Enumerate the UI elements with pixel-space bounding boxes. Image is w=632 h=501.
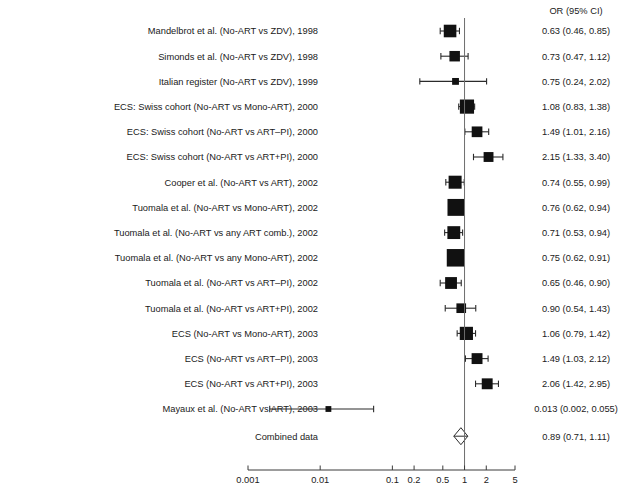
forest-row: ECS: Swiss cohort (No-ART vs ART–PI), 20… [127,126,610,137]
effect-marker [482,378,493,389]
axis-tick-label: 0.1 [386,475,399,485]
effect-marker [447,249,465,267]
study-label: Tuomala et al. (No-ART vs ART–PI), 2002 [145,278,318,288]
summary-label: Combined data [255,432,319,442]
effect-value: 0.75 (0.62, 0.91) [542,253,610,263]
forest-row: ECS: Swiss cohort (No-ART vs Mono-ART), … [114,100,610,114]
axis-tick-label: 5 [512,475,517,485]
study-label: Tuomala et al. (No-ART vs Mono-ART), 200… [132,203,318,213]
effect-value: 1.49 (1.03, 2.12) [542,354,610,364]
study-label: Simonds et al. (No-ART vs ZDV), 1998 [158,52,318,62]
study-label: ECS (No-ART vs ART+PI), 2003 [184,379,318,389]
effect-marker [452,78,459,85]
effect-marker [325,406,331,412]
effect-value: 0.63 (0.46, 0.85) [542,26,610,36]
forest-row: Mayaux et al. (No-ART vs ART), 20030.013… [162,404,617,414]
effect-value: 0.75 (0.24, 2.02) [542,77,610,87]
effect-marker [447,199,464,216]
effect-marker [447,226,460,239]
axis-tick-label: 1 [462,475,467,485]
forest-row: ECS (No-ART vs ART–PI), 20031.49 (1.03, … [185,353,610,364]
forest-row: Tuomala et al. (No-ART vs any ART comb.)… [114,226,610,239]
effect-value: 0.73 (0.47, 1.12) [542,52,610,62]
forest-row: ECS (No-ART vs Mono-ART), 20031.06 (0.79… [172,327,610,340]
x-axis: 0.0010.010.10.20.5125 [236,466,517,486]
forest-row: Mandelbrot et al. (No-ART vs ZDV), 19980… [148,25,610,38]
effect-marker [445,277,457,289]
effect-value: 1.08 (0.83, 1.38) [542,102,610,112]
forest-row: Simonds et al. (No-ART vs ZDV), 19980.73… [158,51,610,62]
study-label: ECS: Swiss cohort (No-ART vs ART–PI), 20… [127,127,318,137]
effect-marker [460,100,474,114]
summary-value: 0.89 (0.71, 1.11) [542,432,610,442]
effect-value: 0.74 (0.55, 0.99) [542,178,610,188]
study-label: Mandelbrot et al. (No-ART vs ZDV), 1998 [148,26,318,36]
study-label: Tuomala et al. (No-ART vs ART+PI), 2002 [145,304,318,314]
effect-marker [444,25,457,38]
plot-header: OR (95% CI) [549,6,602,16]
study-label: ECS: Swiss cohort (No-ART vs Mono-ART), … [114,102,318,112]
axis-tick-label: 2 [484,475,489,485]
axis-tick-label: 0.001 [236,475,259,485]
study-label: ECS (No-ART vs ART–PI), 2003 [185,354,318,364]
axis-tick-label: 0.01 [311,475,329,485]
forest-row: Cooper et al. (No-ART vs ART), 20020.74 … [165,176,611,189]
study-label: Cooper et al. (No-ART vs ART), 2002 [165,178,318,188]
forest-row: ECS: Swiss cohort (No-ART vs ART+PI), 20… [127,152,611,162]
effect-value: 2.06 (1.42, 2.95) [542,379,610,389]
study-rows: Mandelbrot et al. (No-ART vs ZDV), 19980… [114,25,618,415]
study-label: Tuomala et al. (No-ART vs any Mono-ART),… [115,253,318,263]
effect-value: 0.90 (0.54, 1.43) [542,304,610,314]
effect-value: 1.49 (1.01, 2.16) [542,127,610,137]
study-label: Italian register (No-ART vs ZDV), 1999 [159,77,318,87]
effect-value: 1.06 (0.79, 1.42) [542,329,610,339]
summary-row: Combined data0.89 (0.71, 1.11) [255,428,610,445]
forest-row: Italian register (No-ART vs ZDV), 19990.… [159,77,610,87]
effect-value: 0.65 (0.46, 0.90) [542,278,610,288]
effect-value: 2.15 (1.33, 3.40) [542,152,610,162]
column-header-or: OR (95% CI) [549,6,602,16]
forest-row: Tuomala et al. (No-ART vs ART–PI), 20020… [145,277,610,289]
axis-tick-label: 0.5 [436,475,449,485]
effect-marker [449,176,462,189]
forest-row: ECS (No-ART vs ART+PI), 20032.06 (1.42, … [184,378,610,389]
effect-marker [460,327,473,340]
forest-row: Tuomala et al. (No-ART vs any Mono-ART),… [115,249,610,267]
effect-value: 0.76 (0.62, 0.94) [542,203,610,213]
study-label: ECS: Swiss cohort (No-ART vs ART+PI), 20… [127,152,318,162]
study-label: Tuomala et al. (No-ART vs any ART comb.)… [114,228,318,238]
forest-plot: OR (95% CI) Mandelbrot et al. (No-ART vs… [0,0,632,501]
axis-tick-label: 0.2 [408,475,421,485]
effect-value: 0.013 (0.002, 0.055) [534,404,618,414]
forest-row: Tuomala et al. (No-ART vs Mono-ART), 200… [132,199,610,216]
effect-marker [484,152,494,162]
forest-row: Tuomala et al. (No-ART vs ART+PI), 20020… [145,303,610,313]
effect-value: 0.71 (0.53, 0.94) [542,228,610,238]
effect-marker [449,51,459,61]
effect-marker [472,353,483,364]
effect-marker [472,126,483,137]
study-label: ECS (No-ART vs Mono-ART), 2003 [172,329,318,339]
